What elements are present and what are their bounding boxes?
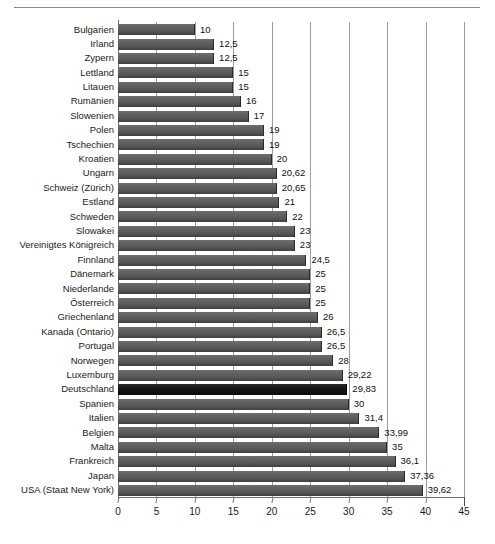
x-tick-label: 30 (343, 505, 354, 519)
category-axis-labels: BulgarienIrlandZypernLettlandLitauenRumä… (0, 22, 114, 497)
bar-malta (118, 442, 387, 453)
bar-belgien (118, 427, 379, 438)
bar-value-label: 16 (246, 94, 257, 108)
bar-value-label: 12,5 (219, 37, 238, 51)
bar-kroatien (118, 154, 272, 165)
bar-portugal (118, 341, 322, 352)
bar-usa-staat-new-york (118, 485, 423, 496)
x-axis-line (118, 497, 465, 498)
category-label: Finnland (0, 253, 114, 267)
bar-value-label: 39,62 (428, 483, 452, 497)
bar-italien (118, 413, 359, 424)
bar-value-label: 19 (269, 123, 280, 137)
bar-polen (118, 125, 264, 136)
bar-value-label: 26,5 (327, 339, 346, 353)
bar-niederlande (118, 283, 310, 294)
bar-value-label: 37,36 (410, 469, 434, 483)
x-tick-label: 0 (115, 505, 121, 519)
category-label: Kroatien (0, 152, 114, 166)
bar-sterreich (118, 298, 310, 309)
bar-irland (118, 39, 214, 50)
bar-bulgarien (118, 24, 195, 35)
bar-value-label: 20 (277, 152, 288, 166)
x-tick-20 (271, 497, 273, 503)
bar-value-label: 20,62 (282, 166, 306, 180)
bar-deutschland (118, 384, 347, 395)
bar-slowenien (118, 111, 249, 122)
bar-zypern (118, 53, 214, 64)
category-label: Vereinigtes Königreich (0, 238, 114, 252)
bar-schweiz-z-rich (118, 183, 277, 194)
category-label: Norwegen (0, 354, 114, 368)
category-label: Dänemark (0, 267, 114, 281)
bar-value-label: 21 (284, 195, 295, 209)
bar-estland (118, 197, 279, 208)
category-label: Frankreich (0, 454, 114, 468)
x-tick-40 (425, 497, 427, 503)
category-label: Lettland (0, 66, 114, 80)
category-label: Schweden (0, 210, 114, 224)
x-tick-35 (386, 497, 388, 503)
bar-value-label: 25 (315, 267, 326, 281)
category-label: Luxemburg (0, 368, 114, 382)
bar-japan (118, 471, 405, 482)
category-label: USA (Staat New York) (0, 483, 114, 497)
bar-value-label: 12,5 (219, 51, 238, 65)
x-tick-label: 5 (154, 505, 160, 519)
x-tick-label: 20 (266, 505, 277, 519)
bar-schweden (118, 211, 287, 222)
bar-value-label: 25 (315, 282, 326, 296)
bar-value-label: 10 (200, 23, 211, 37)
x-tick-label: 45 (458, 505, 469, 519)
category-label: Tschechien (0, 138, 114, 152)
category-label: Portugal (0, 339, 114, 353)
category-label: Ungarn (0, 166, 114, 180)
category-label: Niederlande (0, 282, 114, 296)
category-label: Schweiz (Zürich) (0, 181, 114, 195)
bar-value-label: 15 (238, 66, 249, 80)
bar-rum-nien (118, 96, 241, 107)
category-label: Slowenien (0, 109, 114, 123)
bar-value-label: 29,83 (352, 382, 376, 396)
category-label: Zypern (0, 51, 114, 65)
bar-spanien (118, 399, 349, 410)
bar-value-label: 26 (323, 310, 334, 324)
x-tick-label: 35 (382, 505, 393, 519)
bar-value-label: 28 (338, 354, 349, 368)
bar-value-label: 23 (300, 224, 311, 238)
bar-vereinigtes-k-nigreich (118, 240, 295, 251)
category-label: Litauen (0, 80, 114, 94)
x-tick-label: 10 (189, 505, 200, 519)
bar-value-label: 24,5 (311, 253, 330, 267)
bar-value-label: 23 (300, 238, 311, 252)
bar-value-label: 25 (315, 296, 326, 310)
category-label: Deutschland (0, 382, 114, 396)
category-label: Malta (0, 440, 114, 454)
bar-lettland (118, 67, 233, 78)
x-tick-label: 15 (228, 505, 239, 519)
bar-norwegen (118, 355, 333, 366)
bar-value-label: 29,22 (348, 368, 372, 382)
x-tick-0 (117, 497, 119, 503)
bar-value-label: 15 (238, 80, 249, 94)
bar-value-label: 19 (269, 138, 280, 152)
bar-litauen (118, 82, 233, 93)
category-label: Italien (0, 411, 114, 425)
category-label: Japan (0, 469, 114, 483)
bar-value-label: 36,1 (401, 454, 420, 468)
x-tick-label: 25 (305, 505, 316, 519)
category-label: Griechenland (0, 310, 114, 324)
bar-slowakei (118, 226, 295, 237)
plot-area: 1012,512,51515161719192020,6220,65212223… (118, 22, 464, 497)
bar-ungarn (118, 168, 277, 179)
bar-finnland (118, 255, 306, 266)
category-label: Österreich (0, 296, 114, 310)
x-tick-label: 40 (420, 505, 431, 519)
category-label: Belgien (0, 426, 114, 440)
bar-value-label: 35 (392, 440, 403, 454)
category-label: Rumänien (0, 94, 114, 108)
category-label: Polen (0, 123, 114, 137)
bar-luxemburg (118, 370, 343, 381)
category-label: Spanien (0, 397, 114, 411)
x-tick-30 (348, 497, 350, 503)
